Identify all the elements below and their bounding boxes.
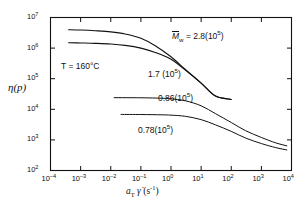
y-tick-label: 106 bbox=[27, 44, 38, 52]
y-tick-label: 103 bbox=[27, 135, 38, 143]
x-axis-title: aT γ̇ (s-1) bbox=[126, 187, 159, 197]
data-curve bbox=[114, 98, 287, 146]
annotation-mw-0-78: 0.78(105) bbox=[138, 126, 173, 135]
annotation-mw-2-8: Mw = 2.8(105) bbox=[172, 31, 224, 41]
x-tick-label: 10–4 bbox=[42, 175, 57, 183]
x-tick-label: 101 bbox=[192, 175, 203, 183]
y-tick-label: 107 bbox=[27, 13, 38, 21]
annotation-mw-1-7: 1.7 (105) bbox=[148, 70, 181, 79]
x-tick-label: 10–1 bbox=[132, 175, 147, 183]
y-tick-label: 104 bbox=[27, 105, 38, 113]
x-tick-label: 10–2 bbox=[102, 175, 117, 183]
figure-container: 102103104105106107 10–410–310–210–110010… bbox=[0, 0, 307, 209]
x-tick-label: 100 bbox=[162, 175, 173, 183]
annotation-mw-0-86: 0.86(105) bbox=[158, 94, 193, 103]
x-tick-label: 10–3 bbox=[72, 175, 87, 183]
x-tick-label: 104 bbox=[283, 175, 294, 183]
x-tick-label: 103 bbox=[252, 175, 263, 183]
y-axis-title: η(p) bbox=[8, 82, 26, 93]
data-curves bbox=[69, 30, 287, 150]
annotation-temperature: T = 160°C bbox=[61, 62, 99, 71]
y-tick-label: 105 bbox=[27, 74, 38, 82]
x-tick-label: 102 bbox=[222, 175, 233, 183]
y-tick-label: 102 bbox=[27, 166, 38, 174]
